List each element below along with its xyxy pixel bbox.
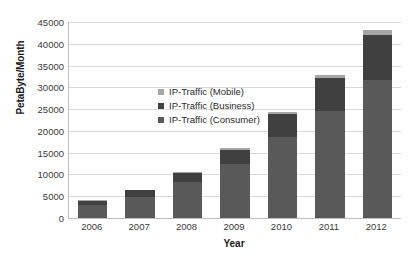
y-axis-tick-label: 0	[18, 213, 64, 224]
bar-segment[interactable]	[363, 35, 392, 79]
bar-segment[interactable]	[268, 114, 297, 137]
x-axis-tick-label: 2012	[353, 221, 400, 232]
bar-stack	[173, 172, 202, 218]
stacked-bar-chart: PetaByte/Month 4500040000350003000025000…	[0, 0, 416, 263]
bar-stack	[78, 200, 107, 218]
y-axis-tick-label: 45000	[18, 17, 64, 28]
bar-group[interactable]	[363, 22, 392, 218]
legend-swatch-icon	[158, 103, 164, 109]
y-axis-tick-label: 15000	[18, 147, 64, 158]
x-axis-tick-label: 2008	[163, 221, 210, 232]
legend-label: IP-Traffic (Mobile)	[169, 86, 244, 97]
legend-item[interactable]: IP-Traffic (Consumer)	[158, 114, 260, 125]
y-axis-tick-label: 5000	[18, 191, 64, 202]
y-axis-tick-label: 20000	[18, 125, 64, 136]
bar-group[interactable]	[125, 22, 154, 218]
x-axis-tick-label: 2006	[68, 221, 115, 232]
legend-label: IP-Traffic (Consumer)	[169, 114, 260, 125]
y-axis-tick-label: 30000	[18, 82, 64, 93]
bar-stack	[268, 112, 297, 218]
bar-segment[interactable]	[363, 80, 392, 219]
y-axis-tick-labels: 4500040000350003000025000200001500010000…	[18, 22, 64, 218]
bar-group[interactable]	[315, 22, 344, 218]
x-axis-tick-label: 2009	[210, 221, 257, 232]
bar-segment[interactable]	[315, 111, 344, 218]
y-axis-tick-label: 10000	[18, 169, 64, 180]
chart-legend: IP-Traffic (Mobile)IP-Traffic (Business)…	[158, 86, 260, 125]
bar-segment[interactable]	[125, 197, 154, 218]
x-axis-tick-label: 2010	[258, 221, 305, 232]
bar-stack	[220, 148, 249, 218]
legend-label: IP-Traffic (Business)	[169, 100, 255, 111]
bar-group[interactable]	[78, 22, 107, 218]
x-axis-tick-label: 2007	[115, 221, 162, 232]
y-axis-tick-label: 35000	[18, 60, 64, 71]
x-axis-tick-labels: 2006200720082009201020112012	[68, 221, 400, 237]
bar-segment[interactable]	[220, 150, 249, 165]
bar-segment[interactable]	[78, 205, 107, 218]
bar-stack	[363, 30, 392, 218]
bar-segment[interactable]	[173, 182, 202, 218]
y-axis-tick-label: 25000	[18, 104, 64, 115]
legend-swatch-icon	[158, 117, 164, 123]
legend-item[interactable]: IP-Traffic (Business)	[158, 100, 260, 111]
legend-item[interactable]: IP-Traffic (Mobile)	[158, 86, 260, 97]
bar-stack	[315, 75, 344, 218]
bar-group[interactable]	[268, 22, 297, 218]
bar-stack	[125, 190, 154, 218]
x-axis-tick-label: 2011	[305, 221, 352, 232]
bar-segment[interactable]	[268, 137, 297, 218]
bar-segment[interactable]	[173, 173, 202, 182]
legend-swatch-icon	[158, 89, 164, 95]
bar-segment[interactable]	[220, 164, 249, 218]
bar-segment[interactable]	[315, 78, 344, 112]
x-axis-title: Year	[68, 238, 400, 249]
y-axis-tick-label: 40000	[18, 38, 64, 49]
